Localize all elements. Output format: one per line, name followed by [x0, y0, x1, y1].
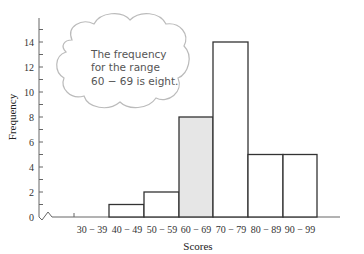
bar-70-79 [213, 42, 248, 217]
x-tick-label: 60 − 69 [181, 224, 212, 235]
histogram-chart: 0 2 4 6 8 10 12 14 Frequency 30 − 39 40 … [0, 0, 364, 254]
x-tick-label: 30 − 39 [77, 224, 108, 235]
x-tick-labels: 30 − 39 40 − 49 50 − 59 60 − 69 70 − 79 … [77, 224, 316, 235]
x-tick-label: 70 − 79 [216, 224, 247, 235]
y-ticks [39, 30, 43, 205]
y-tick-label: 2 [29, 187, 34, 198]
bar-90-99 [283, 155, 317, 218]
y-tick-label: 14 [24, 37, 34, 48]
y-tick-label: 8 [29, 112, 34, 123]
x-tick-label: 80 − 89 [251, 224, 282, 235]
callout-text-line: for the range [91, 61, 160, 73]
x-tick-label: 90 − 99 [285, 224, 316, 235]
y-tick-labels: 0 2 4 6 8 10 12 14 [24, 37, 34, 223]
bar-60-69-highlighted [179, 117, 213, 217]
y-tick-label: 10 [24, 87, 34, 98]
y-tick-label: 12 [24, 62, 34, 73]
bar-80-89 [248, 155, 283, 218]
bar-50-59 [144, 192, 179, 217]
y-tick-label: 4 [29, 162, 34, 173]
y-tick-label: 6 [29, 137, 34, 148]
callout-text-line: 60 − 69 is eight. [91, 75, 178, 87]
x-tick-label: 50 − 59 [147, 224, 178, 235]
x-tick-label: 40 − 49 [112, 224, 143, 235]
x-axis-title: Scores [183, 240, 212, 252]
y-tick-label: 0 [29, 212, 34, 223]
bar-40-49 [109, 205, 144, 218]
callout-text-line: The frequency [90, 48, 167, 60]
y-axis-title: Frequency [6, 93, 18, 140]
